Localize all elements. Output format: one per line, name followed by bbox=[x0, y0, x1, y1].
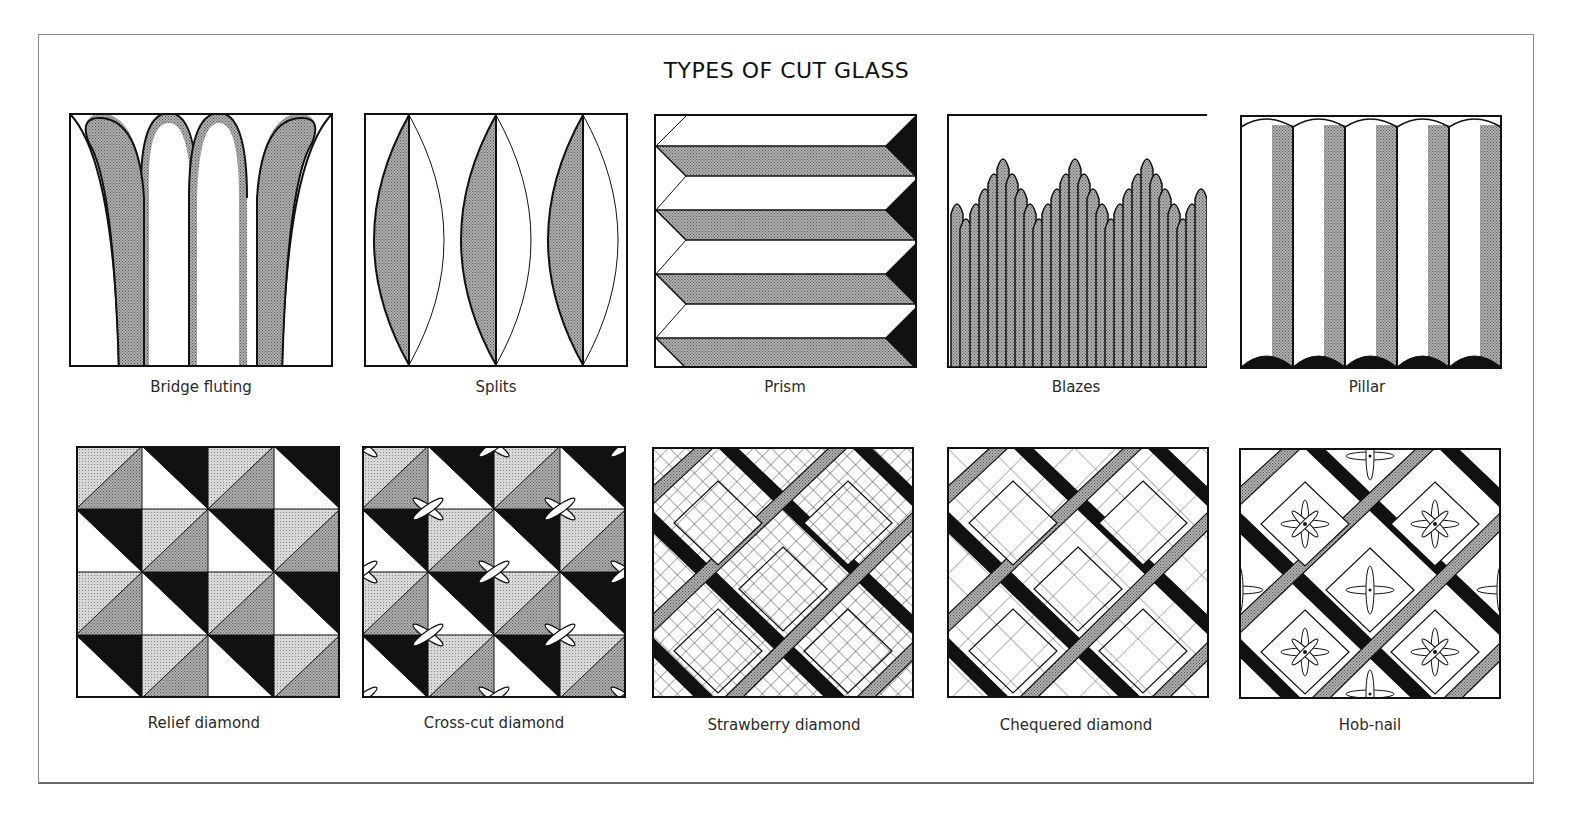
splits-illustration bbox=[364, 113, 628, 367]
caption-prism: Prism bbox=[635, 378, 935, 396]
panel-bridge-fluting bbox=[69, 113, 333, 367]
caption-splits: Splits bbox=[346, 378, 646, 396]
panel-cross-cut-diamond bbox=[362, 446, 626, 698]
caption-relief-diamond: Relief diamond bbox=[54, 714, 354, 732]
chequered-diamond-illustration bbox=[947, 447, 1209, 698]
panel-pillar bbox=[1240, 115, 1502, 369]
panel-strawberry-diamond bbox=[652, 447, 914, 698]
caption-bridge-fluting: Bridge fluting bbox=[51, 378, 351, 396]
cross-cut-diamond-illustration bbox=[362, 446, 626, 698]
panel-blazes bbox=[947, 114, 1207, 368]
bridge-fluting-illustration bbox=[69, 113, 333, 367]
caption-strawberry-diamond: Strawberry diamond bbox=[634, 716, 934, 734]
panel-chequered-diamond bbox=[947, 447, 1209, 698]
prism-illustration bbox=[654, 114, 917, 368]
blazes-illustration bbox=[947, 114, 1207, 368]
caption-hob-nail: Hob-nail bbox=[1220, 716, 1520, 734]
hob-nail-illustration bbox=[1239, 448, 1501, 699]
panel-hob-nail bbox=[1239, 448, 1501, 699]
caption-cross-cut-diamond: Cross-cut diamond bbox=[344, 714, 644, 732]
caption-blazes: Blazes bbox=[926, 378, 1226, 396]
relief-diamond-illustration bbox=[76, 446, 340, 698]
panel-relief-diamond bbox=[76, 446, 340, 698]
panel-splits bbox=[364, 113, 628, 367]
caption-chequered-diamond: Chequered diamond bbox=[926, 716, 1226, 734]
strawberry-diamond-illustration bbox=[652, 447, 914, 698]
panel-prism bbox=[654, 114, 917, 368]
pillar-illustration bbox=[1240, 115, 1502, 369]
caption-pillar: Pillar bbox=[1217, 378, 1517, 396]
figure-title: TYPES OF CUT GLASS bbox=[0, 58, 1573, 83]
